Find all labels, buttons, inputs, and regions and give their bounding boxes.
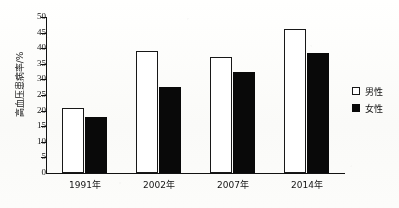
x-axis-tick-label: 2002年 [119, 178, 199, 191]
bar-female [85, 117, 107, 173]
hollow-square-icon [352, 87, 360, 95]
y-axis-tick-label: 0 [24, 168, 46, 177]
y-axis-tick-mark [41, 142, 46, 143]
bar-male [136, 51, 158, 173]
legend-item-label: 女性 [365, 102, 383, 115]
y-axis-tick-mark [41, 79, 46, 80]
legend-item: 女性 [352, 101, 383, 115]
x-axis-tick-label: 1991年 [45, 178, 125, 191]
y-axis-tick-mark [41, 64, 46, 65]
y-axis-tick-mark [41, 111, 46, 112]
bar-female [307, 53, 329, 173]
bar-group [284, 16, 330, 173]
bar-male [284, 29, 306, 173]
y-axis-tick-mark [41, 33, 46, 34]
hypertension-prevalence-bar-chart: 高血压患病率/% 50454035302520151050 1991年2002年… [0, 0, 399, 208]
filled-square-icon [352, 104, 360, 112]
y-axis-tick-mark [41, 126, 46, 127]
bar-male [210, 57, 232, 173]
chart-legend: 男性女性 [352, 84, 383, 118]
x-axis-tick-label: 2007年 [193, 178, 273, 191]
bar-female [159, 87, 181, 173]
y-axis-tick-mark [41, 95, 46, 96]
x-axis-tick-label: 2014年 [267, 178, 347, 191]
y-axis-tick: 0 [14, 168, 46, 177]
legend-item-label: 男性 [365, 85, 383, 98]
y-axis-line [46, 17, 47, 174]
y-axis-tick-mark [41, 17, 46, 18]
bar-female [233, 72, 255, 173]
x-axis-line [46, 173, 345, 174]
bar-group [62, 16, 108, 173]
bar-group [136, 16, 182, 173]
bar-group [210, 16, 256, 173]
y-axis-tick-mark [41, 48, 46, 49]
bar-male [62, 108, 84, 173]
y-axis-tick-mark [41, 157, 46, 158]
legend-item: 男性 [352, 84, 383, 98]
